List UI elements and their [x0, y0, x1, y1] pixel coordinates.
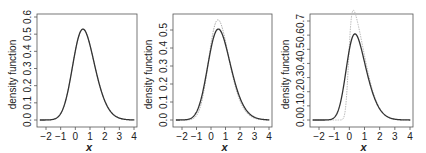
plot-frame	[173, 14, 272, 127]
true-density-curve	[313, 10, 411, 120]
y-tick-label: 0.0	[22, 113, 33, 127]
y-tick-label: 0.0	[158, 113, 169, 127]
x-tick-label: −1	[191, 131, 203, 142]
x-tick-label: 4	[407, 131, 413, 142]
x-tick-label: 3	[392, 131, 398, 142]
x-tick-label: 4	[131, 131, 137, 142]
y-tick-label: 0.1	[158, 95, 169, 109]
y-tick-label: 0.2	[158, 77, 169, 91]
x-tick-label: 0	[347, 131, 353, 142]
x-tick-label: −1	[328, 131, 340, 142]
y-tick-label: 0.1	[22, 95, 33, 109]
x-tick-label: −1	[55, 131, 67, 142]
y-tick-label: 0.2	[295, 84, 306, 98]
y-tick-label: 0.3	[295, 70, 306, 84]
density-plot-panel-3: −2−1012340.00.10.20.30.40.50.60.7xdensit…	[280, 10, 413, 153]
y-axis-label: density function	[7, 40, 18, 110]
density-plot-panel-2: −2−1012340.00.10.20.30.40.5xdensity func…	[143, 14, 272, 153]
y-tick-label: 0.5	[158, 23, 169, 37]
figure: −2−1012340.00.10.20.30.40.50.6xdensity f…	[0, 0, 426, 153]
plot-frame	[37, 14, 137, 127]
y-axis-label: density function	[280, 40, 291, 110]
fitted-density-curve	[40, 29, 134, 120]
x-tick-label: 4	[266, 131, 272, 142]
x-tick-label: 0	[73, 131, 79, 142]
x-tick-label: −2	[40, 131, 52, 142]
x-tick-label: 3	[252, 131, 258, 142]
x-tick-label: −2	[176, 131, 188, 142]
y-tick-label: 0.4	[158, 41, 169, 55]
y-axis-label: density function	[143, 40, 154, 110]
x-tick-label: −2	[313, 131, 325, 142]
y-tick-label: 0.2	[22, 78, 33, 92]
x-axis-label: x	[359, 141, 367, 153]
y-tick-label: 0.7	[295, 14, 306, 28]
x-tick-label: 2	[237, 131, 243, 142]
y-tick-label: 0.6	[295, 28, 306, 42]
y-tick-label: 0.5	[22, 27, 33, 41]
x-axis-label: x	[85, 141, 93, 153]
y-tick-label: 0.4	[22, 44, 33, 58]
y-tick-label: 0.0	[295, 113, 306, 127]
fitted-density-curve	[176, 29, 269, 120]
density-plot-panel-1: −2−1012340.00.10.20.30.40.50.6xdensity f…	[7, 10, 137, 153]
fitted-density-curve	[313, 34, 411, 120]
x-tick-label: 2	[377, 131, 383, 142]
true-density-curve	[40, 29, 134, 120]
y-tick-label: 0.5	[295, 42, 306, 56]
x-tick-label: 2	[102, 131, 108, 142]
x-tick-label: 0	[208, 131, 214, 142]
y-tick-label: 0.3	[158, 59, 169, 73]
y-tick-label: 0.6	[22, 10, 33, 24]
y-tick-label: 0.4	[295, 56, 306, 70]
y-tick-label: 0.3	[22, 61, 33, 75]
x-axis-label: x	[220, 141, 228, 153]
x-tick-label: 3	[117, 131, 123, 142]
y-tick-label: 0.1	[295, 98, 306, 112]
plot-frame	[310, 14, 413, 127]
